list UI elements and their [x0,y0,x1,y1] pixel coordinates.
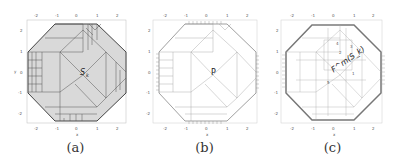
svg-text:0: 0 [75,126,78,131]
svg-text:-2: -2 [274,111,278,116]
region-label-a: S [80,68,85,77]
svg-text:x: x [76,132,79,137]
svg-text:-2: -2 [163,13,167,18]
caption-b: (b) [138,140,271,155]
svg-text:0: 0 [75,13,78,18]
svg-text:-1: -1 [184,13,188,18]
svg-text:2: 2 [20,28,23,33]
svg-text:1: 1 [226,126,229,131]
panel-a: -2-1012 -2-1012 x 210-1-2 y S k (a) [0,0,133,165]
panel-c: -2-1012 -2-1012 x 210-1-2 43215 F^m(S_k)… [266,0,399,165]
svg-text:2: 2 [246,13,249,18]
svg-text:-2: -2 [34,13,38,18]
svg-text:-1: -1 [311,13,315,18]
octagon-partition-diagram-b: -2-1012 -2-1012 x 210-1-2 P [133,0,266,140]
svg-text:-1: -1 [274,90,278,95]
svg-text:-1: -1 [18,90,22,95]
svg-text:1: 1 [148,49,151,54]
svg-text:1: 1 [20,49,23,54]
svg-text:2: 2 [276,28,279,33]
svg-text:0: 0 [332,126,335,131]
octagon-partition-diagram-c: -2-1012 -2-1012 x 210-1-2 43215 F^m(S_k) [266,0,400,140]
octagon-partition-diagram-a: -2-1012 -2-1012 x 210-1-2 y S k [0,0,133,140]
svg-text:-2: -2 [163,126,167,131]
svg-text:-1: -1 [146,90,150,95]
svg-text:0: 0 [20,70,23,75]
svg-text:-1: -1 [184,126,188,131]
caption-a: (a) [9,140,142,155]
svg-text:y: y [14,69,17,74]
svg-text:0: 0 [148,70,151,75]
svg-text:-1: -1 [311,126,315,131]
svg-text:-2: -2 [34,126,38,131]
svg-text:1: 1 [96,126,99,131]
svg-text:x: x [333,132,336,137]
svg-text:-2: -2 [290,126,294,131]
svg-text:-2: -2 [290,13,294,18]
region-label-b: P [211,68,216,77]
svg-text:0: 0 [205,13,208,18]
svg-text:1: 1 [276,49,279,54]
svg-text:2: 2 [372,13,375,18]
svg-text:x: x [206,132,209,137]
panel-b: -2-1012 -2-1012 x 210-1-2 P (b) [133,0,266,165]
svg-text:-1: -1 [55,13,59,18]
svg-text:2: 2 [116,13,119,18]
svg-text:1: 1 [353,126,356,131]
svg-text:2: 2 [246,126,249,131]
svg-text:1: 1 [96,13,99,18]
svg-text:1: 1 [353,13,356,18]
svg-text:2: 2 [148,28,151,33]
svg-text:2: 2 [116,126,119,131]
svg-text:0: 0 [205,126,208,131]
svg-text:1: 1 [226,13,229,18]
svg-text:0: 0 [276,70,279,75]
svg-text:0: 0 [332,13,335,18]
svg-text:2: 2 [372,126,375,131]
svg-text:-2: -2 [18,111,22,116]
svg-text:-1: -1 [55,126,59,131]
svg-text:-2: -2 [146,111,150,116]
caption-c: (c) [266,140,399,155]
